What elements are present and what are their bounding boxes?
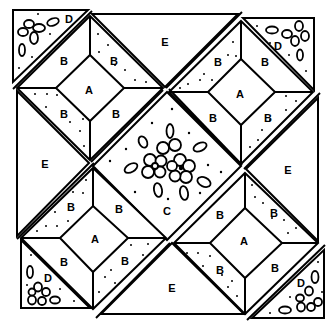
label-b: B: [60, 55, 68, 67]
label-b: B: [115, 203, 123, 215]
label-e-left: E: [41, 158, 48, 170]
label-b: B: [112, 108, 120, 120]
label-b: B: [261, 56, 269, 68]
label-b: B: [270, 207, 278, 219]
quilt-diagram: E E E E D: [0, 0, 333, 325]
label-b: B: [121, 255, 129, 267]
label-e-bottom: E: [168, 282, 175, 294]
label-a: A: [85, 84, 93, 96]
label-d-top-left: D: [65, 13, 73, 25]
label-e-top: E: [161, 36, 168, 48]
label-c: C: [163, 205, 171, 217]
label-b: B: [60, 256, 68, 268]
label-b: B: [110, 55, 118, 67]
label-a: A: [236, 88, 244, 100]
label-d-bottom-left: D: [44, 272, 52, 284]
label-b: B: [216, 264, 224, 276]
label-b: B: [271, 262, 279, 274]
label-e-right: E: [284, 164, 291, 176]
label-b: B: [60, 108, 68, 120]
label-b: B: [209, 112, 217, 124]
label-b: B: [264, 112, 272, 124]
label-b: B: [216, 209, 224, 221]
label-d-bottom-right: D: [297, 277, 305, 289]
label-b: B: [214, 56, 222, 68]
label-a: A: [91, 233, 99, 245]
label-b: B: [67, 201, 75, 213]
label-d-top-right: D: [274, 40, 282, 52]
label-a: A: [240, 235, 248, 247]
